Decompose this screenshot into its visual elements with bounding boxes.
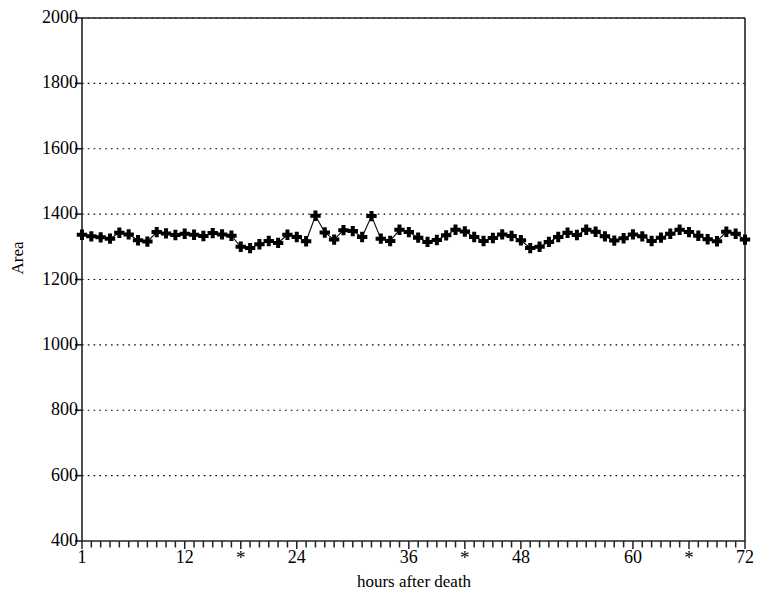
data-point-marker [95, 232, 105, 242]
data-point-marker [413, 232, 423, 242]
data-point-marker [674, 225, 684, 235]
data-point-marker [404, 227, 414, 237]
data-point-marker [665, 229, 675, 239]
data-point-marker [469, 232, 479, 242]
data-point-marker [208, 228, 218, 238]
data-point-marker [264, 236, 274, 246]
data-point-marker [581, 225, 591, 235]
data-point-marker [254, 239, 264, 249]
data-point-marker [189, 230, 199, 240]
data-point-marker [348, 226, 358, 236]
plot-canvas [0, 0, 757, 601]
data-point-marker [161, 228, 171, 238]
data-point-marker [488, 233, 498, 243]
data-point-marker [730, 229, 740, 239]
data-point-marker [740, 234, 750, 244]
x-tick-label: 60 [624, 548, 642, 566]
x-tick-label: 48 [512, 548, 530, 566]
y-tick-label: 1200 [14, 270, 78, 288]
data-point-marker [170, 230, 180, 240]
data-point-marker [646, 236, 656, 246]
data-point-marker [86, 231, 96, 241]
data-point-marker [497, 229, 507, 239]
data-point-marker [301, 236, 311, 246]
data-point-marker [609, 235, 619, 245]
data-point-marker [217, 229, 227, 239]
data-point-marker [693, 230, 703, 240]
data-point-marker [506, 231, 516, 241]
data-point-marker [572, 230, 582, 240]
data-point-marker [618, 233, 628, 243]
x-axis-title: hours after death [82, 572, 746, 592]
y-tick-label: 1600 [14, 139, 78, 157]
data-point-marker [637, 231, 647, 241]
y-tick-label: 2000 [14, 8, 78, 26]
data-point-marker [534, 242, 544, 252]
gridlines [82, 18, 745, 476]
data-point-marker [432, 235, 442, 245]
x-tick-label-asterisk: * [236, 549, 246, 567]
data-point-marker [180, 229, 190, 239]
data-point-marker [590, 227, 600, 237]
data-point-marker [544, 237, 554, 247]
y-tick-label: 400 [14, 531, 78, 549]
y-tick-label: 1400 [14, 204, 78, 222]
chart-figure: Area 400600800100012001400160018002000 1… [0, 0, 757, 601]
x-tick-label-asterisk: * [460, 549, 470, 567]
data-point-marker [450, 225, 460, 235]
data-point-marker [245, 243, 255, 253]
data-point-marker [562, 228, 572, 238]
data-point-marker [357, 232, 367, 242]
data-point-marker [77, 230, 87, 240]
y-tick-label: 1800 [14, 73, 78, 91]
data-point-marker [366, 211, 376, 221]
y-tick-label-layer: 400600800100012001400160018002000 [0, 0, 78, 601]
y-tick-label: 1000 [14, 335, 78, 353]
data-point-marker [702, 234, 712, 244]
data-point-marker [376, 233, 386, 243]
x-tick-label-asterisk: * [684, 549, 694, 567]
data-point-marker [684, 227, 694, 237]
data-point-marker [460, 226, 470, 236]
data-point-marker [198, 231, 208, 241]
y-tick-label: 800 [14, 400, 78, 418]
data-point-marker [292, 232, 302, 242]
data-point-marker [422, 237, 432, 247]
data-point-marker [114, 228, 124, 238]
data-point-marker [478, 236, 488, 246]
data-point-marker [320, 227, 330, 237]
data-point-marker [656, 232, 666, 242]
data-point-marker [105, 233, 115, 243]
data-point-marker [123, 229, 133, 239]
x-tick-label: 12 [176, 548, 194, 566]
data-point-marker [310, 211, 320, 221]
x-tick-label: 72 [736, 548, 754, 566]
data-point-marker [441, 230, 451, 240]
data-point-marker [600, 231, 610, 241]
x-tick-label: 36 [400, 548, 418, 566]
data-point-marker [628, 229, 638, 239]
x-tick-label: 24 [288, 548, 306, 566]
data-markers [77, 211, 750, 254]
y-tick-label: 600 [14, 466, 78, 484]
x-tick-label: 1 [78, 548, 87, 566]
data-point-marker [553, 232, 563, 242]
data-point-marker [133, 235, 143, 245]
